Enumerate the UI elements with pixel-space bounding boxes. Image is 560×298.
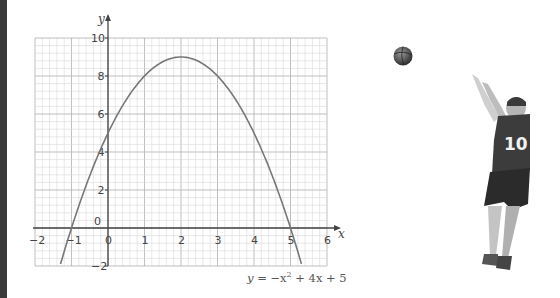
x-tick-label: 4 [251, 234, 258, 247]
x-axis-label: x [338, 227, 345, 241]
equation-tail: + 4x + 5 [292, 271, 347, 285]
y-tick-label: 6 [98, 108, 105, 121]
grid [35, 38, 327, 266]
y-tick-label: 0 [94, 215, 101, 228]
x-tick-label: 2 [178, 234, 185, 247]
x-tick-label: 3 [215, 234, 222, 247]
x-tick-label: 0 [105, 234, 112, 247]
x-tick-label: −2 [29, 234, 45, 247]
x-tick-label: 6 [324, 234, 331, 247]
y-tick-label: 2 [98, 184, 105, 197]
equation-rest: = −x [254, 271, 287, 285]
axes [33, 14, 341, 266]
jersey-number: 10 [504, 134, 528, 154]
x-tick-label: 1 [142, 234, 149, 247]
y-tick-label: 10 [91, 32, 105, 45]
basketball-icon [394, 47, 413, 66]
y-tick-label: −2 [91, 260, 107, 273]
player-figure: 10 [472, 74, 530, 270]
basketball-player-illustration: 10 [380, 30, 560, 290]
y-axis-label: y [97, 12, 105, 26]
equation-label: y = −x2 + 4x + 5 [247, 270, 347, 285]
y-tick-label: 8 [98, 70, 105, 83]
